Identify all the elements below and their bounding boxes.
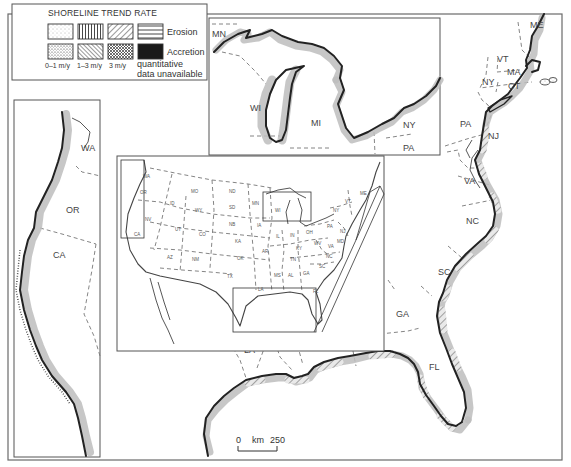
overview-label: SC [319,264,326,269]
overview-label: KA [235,239,241,244]
gulf-coast-hatched-segments [248,354,452,428]
legend: SHORELINE TREND RATE Erosion Accretion 0… [12,4,207,80]
overview-label: UT [175,227,181,232]
island [549,78,557,83]
overview-label: NM [192,257,199,262]
state-label-vt: VT [497,54,509,64]
overview-label: MN [252,201,259,206]
overview-label: OH [306,230,313,235]
overview-label: OR [140,190,148,195]
overview-label: WI [275,208,281,213]
overview-label: NC [326,254,333,259]
shoreline-trend-map: ME VT MA NY CT PA NJ VA NC SC GA FL AL M… [0,0,571,467]
overview-label: AR [262,249,269,254]
state-label-mi: MI [311,118,321,128]
state-label-va: VA [464,176,475,186]
overview-label: WV [314,241,321,246]
overview-label: NB [229,222,235,227]
overview-label: WA [143,174,150,179]
swatch-erosion-3 [108,24,133,39]
overview-label: NY [333,208,339,213]
island [540,79,550,85]
rate-label-3: 3 m/y [109,62,127,70]
swatch-erosion-0-1 [48,24,73,39]
rate-label-0-1: 0–1 m/y [45,62,70,70]
overview-label: KY [296,246,302,251]
overview-label: WY [195,208,202,213]
legend-title: SHORELINE TREND RATE [48,8,157,18]
swatch-erosion-1-3 [78,24,103,39]
overview-label: MS [274,273,281,278]
overview-label: IL [276,234,280,239]
state-label-fl: FL [429,362,440,372]
overview-label: AZ [167,255,173,260]
swatch-accretion-3 [108,44,133,59]
overview-label: CO [199,232,206,237]
scale-end: 250 [270,435,285,445]
overview-label: TX [227,274,233,279]
legend-accretion-label: Accretion [167,47,205,57]
overview-label: GA [303,271,310,276]
swatch-accretion-unavailable [138,44,163,59]
state-label-ca: CA [53,250,66,260]
overview-label: TN [290,257,296,262]
unavailable-label-line2: data unavailable [137,69,203,79]
scale-bar: 0 km 250 [236,435,285,451]
state-label-sc: SC [438,267,451,277]
overview-label: SD [229,205,236,210]
state-label-or: OR [66,205,80,215]
unavailable-label-line1: quantitative [137,59,183,69]
state-label-wa: WA [81,143,95,153]
overview-label: MO [191,189,199,194]
overview-inset: WA OR NV CA MO ID WY UT CO AZ NM ND SD N… [117,156,384,351]
legend-erosion-label: Erosion [167,27,198,37]
swatch-erosion-unavailable [138,24,163,39]
rate-label-1-3: 1–3 m/y [77,62,102,70]
overview-label: NJ [340,229,346,234]
scale-start: 0 [236,435,241,445]
overview-label: IN [290,233,295,238]
overview-label: LA [258,287,264,292]
overview-label: VT [345,199,351,204]
state-label-ct: CT [508,81,520,91]
state-label-wi: WI [250,103,261,113]
overview-label: ND [229,189,236,194]
overview-label: VA [328,244,334,249]
overview-label: CA [134,232,140,237]
state-label-nj: NJ [488,131,499,141]
swatch-accretion-0-1 [48,44,73,59]
state-label-mn: MN [212,29,226,39]
overview-label: MD [337,239,345,244]
overview-inset-frame [117,156,384,351]
scale-line [238,446,277,451]
swatch-accretion-1-3 [78,44,103,59]
great-lakes-inset: MN WI MI NY PA [209,18,440,155]
overview-label: FL [313,289,319,294]
state-label-pa: PA [460,119,471,129]
east-coast-hatched-segments [442,130,498,368]
overview-label: IA [257,223,261,228]
state-label-nc: NC [466,216,479,226]
state-label-pa-gl: PA [403,143,414,153]
state-label-ny: NY [482,77,495,87]
overview-label: NV [145,217,151,222]
overview-label: AL [288,273,294,278]
overview-label: ME [360,191,367,196]
overview-label: ID [170,201,175,206]
west-coast-inset: WA OR CA [14,100,100,457]
state-label-me: ME [530,20,544,30]
overview-label: PA [327,224,333,229]
overview-label: OK [237,256,244,261]
state-label-ga: GA [396,309,409,319]
state-label-ny-gl: NY [403,120,416,130]
state-label-ma: MA [507,67,521,77]
scale-unit: km [252,435,264,445]
